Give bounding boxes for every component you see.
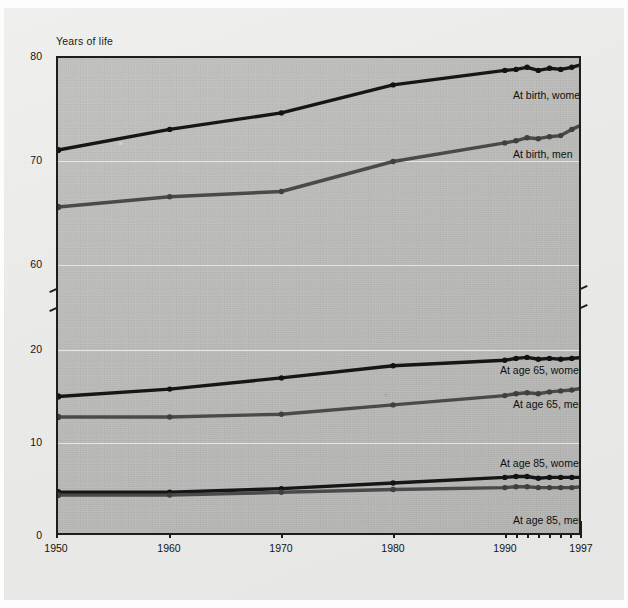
- data-point: [558, 133, 563, 138]
- data-point: [524, 355, 529, 360]
- data-point: [513, 138, 518, 143]
- data-point: [279, 189, 284, 194]
- y-tick-0: 0: [2, 529, 42, 541]
- data-point: [536, 136, 541, 141]
- data-point: [279, 375, 284, 380]
- data-point: [390, 480, 395, 485]
- data-point: [513, 484, 518, 489]
- data-point: [536, 476, 541, 481]
- data-point: [167, 414, 172, 419]
- x-tick-1960: 1960: [157, 542, 180, 554]
- data-point: [524, 135, 529, 140]
- data-point: [390, 159, 395, 164]
- data-point: [580, 484, 581, 489]
- data-point: [524, 390, 529, 395]
- data-point: [536, 391, 541, 396]
- data-point: [558, 485, 563, 490]
- data-point: [580, 475, 581, 480]
- data-point: [547, 389, 552, 394]
- data-point: [547, 134, 552, 139]
- y-axis-title: Years of life: [56, 35, 113, 47]
- data-point: [536, 357, 541, 362]
- data-point: [569, 127, 574, 132]
- data-point: [58, 147, 61, 153]
- chart-page: Years of life 80 70 60 20 10 0 1950 1960…: [0, 0, 628, 608]
- data-point: [167, 127, 172, 132]
- data-point: [524, 484, 529, 489]
- data-point: [547, 356, 552, 361]
- data-point: [390, 363, 395, 368]
- data-point: [580, 62, 581, 67]
- data-point: [58, 393, 61, 399]
- data-point: [558, 388, 563, 393]
- data-point: [502, 475, 507, 480]
- data-point: [390, 402, 395, 407]
- series-label-age65-men: At age 65, men: [513, 398, 581, 410]
- data-point: [524, 474, 529, 479]
- data-point: [569, 387, 574, 392]
- series-label-age85-women: At age 85, women: [500, 457, 581, 469]
- data-point: [536, 68, 541, 73]
- data-point: [513, 67, 518, 72]
- data-point: [547, 475, 552, 480]
- data-point: [547, 485, 552, 490]
- x-tick-1980: 1980: [381, 542, 404, 554]
- scanned-page-background: Years of life 80 70 60 20 10 0 1950 1960…: [4, 8, 624, 600]
- data-point: [390, 487, 395, 492]
- data-point: [513, 474, 518, 479]
- y-tick-60: 60: [2, 258, 42, 270]
- data-point: [513, 391, 518, 396]
- data-point: [524, 65, 529, 70]
- data-point: [536, 485, 541, 490]
- data-point: [558, 67, 563, 72]
- data-point: [547, 66, 552, 71]
- data-point: [580, 355, 581, 360]
- data-point: [167, 194, 172, 199]
- data-point: [58, 204, 61, 210]
- data-point: [569, 356, 574, 361]
- x-tick-1970: 1970: [269, 542, 292, 554]
- data-point: [558, 357, 563, 362]
- data-point: [502, 140, 507, 145]
- data-point: [502, 68, 507, 73]
- data-point: [513, 356, 518, 361]
- x-tick-1950: 1950: [44, 542, 67, 554]
- series-label-birth-women: At birth, women: [513, 89, 581, 101]
- data-point: [279, 110, 284, 115]
- data-point: [580, 385, 581, 390]
- series-label-birth-men: At birth, men: [513, 148, 573, 160]
- series-line-at-birth-women: [58, 64, 581, 150]
- y-tick-20: 20: [2, 343, 42, 355]
- data-point: [502, 485, 507, 490]
- x-tick-1997: 1997: [569, 542, 592, 554]
- series-label-age85-men: At age 85, men: [513, 514, 581, 526]
- series-label-age65-women: At age 65, women: [500, 364, 581, 376]
- data-point: [167, 386, 172, 391]
- x-tick-1990: 1990: [493, 542, 516, 554]
- bleed-through-text: [304, 14, 307, 21]
- data-point: [167, 492, 172, 497]
- y-tick-80: 80: [2, 50, 42, 62]
- data-point: [279, 412, 284, 417]
- data-point: [279, 490, 284, 495]
- y-tick-10: 10: [2, 436, 42, 448]
- y-tick-70: 70: [2, 154, 42, 166]
- data-point: [390, 82, 395, 87]
- data-point: [58, 414, 61, 420]
- plot-area: At birth, women At birth, men At age 65,…: [56, 56, 581, 535]
- data-point: [569, 65, 574, 70]
- data-point: [569, 475, 574, 480]
- data-point: [569, 485, 574, 490]
- data-point: [502, 393, 507, 398]
- data-point: [502, 358, 507, 363]
- data-point: [580, 122, 581, 127]
- data-point: [558, 475, 563, 480]
